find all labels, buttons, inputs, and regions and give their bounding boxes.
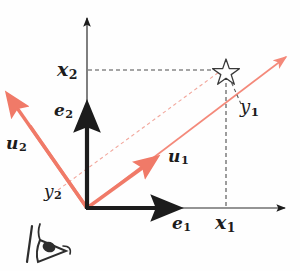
label-u2: u2 bbox=[6, 135, 27, 154]
label-x1-sub: 1 bbox=[227, 220, 236, 235]
label-y2: y2 bbox=[44, 183, 62, 202]
label-y2-sub: 2 bbox=[54, 188, 62, 202]
u1-vector bbox=[87, 158, 156, 208]
eye-sketch-icon bbox=[27, 224, 70, 262]
label-x2-sub: 2 bbox=[69, 67, 78, 82]
label-u1-base: u bbox=[168, 146, 180, 166]
y2-projection-ray bbox=[58, 64, 230, 190]
orthonormal-basis-group bbox=[86, 105, 178, 209]
star-point-marker bbox=[213, 59, 240, 84]
label-u2-sub: 2 bbox=[19, 140, 27, 154]
label-e2-base: e bbox=[54, 100, 65, 120]
label-e1-sub: 1 bbox=[183, 220, 191, 234]
label-y1-base: y bbox=[240, 96, 250, 117]
label-e2-sub: 2 bbox=[65, 107, 73, 121]
label-x1-base: x bbox=[215, 211, 226, 233]
label-x1: x1 bbox=[215, 213, 236, 234]
vector-basis-diagram: x2 e2 u2 y2 u1 e1 x1 y1 bbox=[0, 0, 300, 271]
oblique-basis-group bbox=[8, 95, 156, 208]
label-e2: e2 bbox=[54, 102, 73, 121]
label-u1-sub: 1 bbox=[181, 153, 189, 167]
label-y1-sub: 1 bbox=[251, 105, 259, 119]
label-e1-base: e bbox=[172, 213, 183, 233]
label-y1: y1 bbox=[240, 98, 259, 118]
label-y2-base: y bbox=[44, 181, 54, 201]
diagram-canvas bbox=[0, 0, 300, 271]
label-x2: x2 bbox=[57, 60, 78, 81]
guides-group bbox=[88, 70, 241, 206]
label-x2-base: x bbox=[57, 58, 68, 80]
label-e1: e1 bbox=[172, 215, 191, 234]
label-u1: u1 bbox=[168, 148, 189, 167]
label-u2-base: u bbox=[6, 133, 18, 153]
